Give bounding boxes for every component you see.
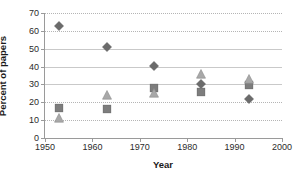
data-point-triangle-1953 <box>54 113 64 123</box>
y-axis-title: Percent of papers <box>0 36 8 116</box>
plot-area: 010203040506070195019601970198019902000 <box>44 13 282 139</box>
gridline-y-50 <box>45 49 282 50</box>
y-tick-label-60: 60 <box>29 26 39 35</box>
x-tick-label-2000: 2000 <box>272 143 292 152</box>
y-tick-20 <box>41 102 45 103</box>
x-axis-title: Year <box>153 159 173 170</box>
data-point-diamond-1973 <box>149 61 159 71</box>
data-point-square-1983 <box>197 87 206 96</box>
data-point-triangle-1963 <box>102 90 112 100</box>
x-tick-label-1980: 1980 <box>177 143 197 152</box>
gridline-y-10 <box>45 120 282 121</box>
y-tick-70 <box>41 13 45 14</box>
data-point-diamond-1963 <box>102 42 112 52</box>
x-tick-label-1950: 1950 <box>35 143 55 152</box>
y-tick-10 <box>41 120 45 121</box>
data-point-triangle-1993 <box>244 74 254 84</box>
gridline-y-70 <box>45 13 282 14</box>
data-point-diamond-1993 <box>244 94 254 104</box>
scatter-chart: Percent of papers 0102030405060701950196… <box>0 0 306 174</box>
y-tick-label-20: 20 <box>29 98 39 107</box>
y-tick-label-40: 40 <box>29 62 39 71</box>
y-tick-60 <box>41 31 45 32</box>
data-point-triangle-1983 <box>196 69 206 79</box>
gridline-y-40 <box>45 67 282 68</box>
data-point-diamond-1953 <box>54 21 64 31</box>
y-tick-label-70: 70 <box>29 9 39 18</box>
y-tick-label-50: 50 <box>29 44 39 53</box>
y-tick-30 <box>41 84 45 85</box>
x-tick-label-1970: 1970 <box>130 143 150 152</box>
data-point-square-1953 <box>55 103 64 112</box>
data-point-square-1963 <box>102 105 111 114</box>
data-point-triangle-1973 <box>149 88 159 98</box>
y-tick-40 <box>41 67 45 68</box>
x-tick-label-1990: 1990 <box>225 143 245 152</box>
x-tick-label-1960: 1960 <box>82 143 102 152</box>
y-tick-label-30: 30 <box>29 80 39 89</box>
y-tick-50 <box>41 49 45 50</box>
y-tick-label-10: 10 <box>29 116 39 125</box>
gridline-y-60 <box>45 31 282 32</box>
